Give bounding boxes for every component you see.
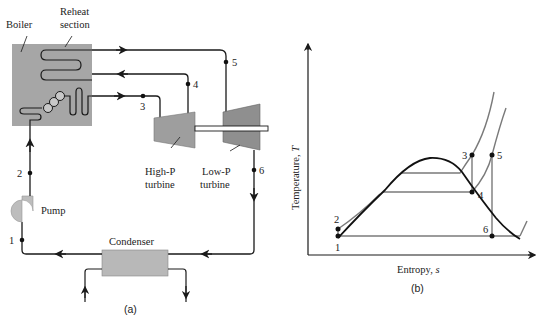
- x-axis-label: Entropy, s: [397, 264, 440, 275]
- state-1-label: 1: [9, 235, 14, 246]
- line-reheat-to-lp: [92, 50, 226, 118]
- schematic-diagram: Boiler Reheat section Pump Condenser Hig…: [6, 6, 268, 315]
- ts-state-4: 4: [478, 190, 484, 201]
- cooling-water-in: [85, 269, 102, 302]
- state-3-label: 3: [140, 101, 145, 112]
- reheat-label-1: Reheat: [60, 6, 89, 17]
- turbine-shaft: [195, 126, 268, 131]
- line-boiler-to-hp: [92, 96, 160, 120]
- hp-turbine-label-1: High-P: [145, 166, 175, 177]
- ts-state-1: 1: [335, 242, 340, 253]
- state-5-label: 5: [232, 57, 237, 68]
- state-4-label: 4: [193, 79, 199, 90]
- pump-label: Pump: [41, 205, 66, 216]
- pump: [11, 196, 33, 222]
- ts-state-dots: [336, 153, 495, 239]
- condenser-label: Condenser: [109, 236, 154, 247]
- process-lines: [338, 92, 527, 238]
- ts-state-5: 5: [497, 150, 502, 161]
- ts-state-6: 6: [483, 224, 488, 235]
- reheat-rankine-figure: Boiler Reheat section Pump Condenser Hig…: [0, 0, 540, 323]
- condenser: [102, 250, 168, 276]
- y-axis-label: Temperature, T: [290, 145, 301, 210]
- reheat-label-2: section: [60, 19, 90, 30]
- state-6-label: 6: [259, 165, 264, 176]
- cooling-water-out: [168, 269, 186, 302]
- ts-state-2: 2: [334, 214, 339, 225]
- saturation-dome: [338, 158, 520, 239]
- state-2-label: 2: [17, 168, 22, 179]
- ts-diagram: 1 2 3 4 5 6 Entropy, s Temperature, T (b…: [290, 44, 535, 294]
- hp-turbine-label-2: turbine: [145, 179, 175, 190]
- lp-turbine-label-1: Low-P: [202, 166, 231, 177]
- line-condenser-to-pump: [22, 222, 102, 254]
- caption-b: (b): [411, 282, 424, 294]
- boiler-label: Boiler: [6, 19, 33, 30]
- high-pressure-turbine: [154, 112, 195, 148]
- ts-state-3: 3: [462, 150, 467, 161]
- caption-a: (a): [124, 303, 137, 315]
- lp-turbine-label-2: turbine: [200, 179, 230, 190]
